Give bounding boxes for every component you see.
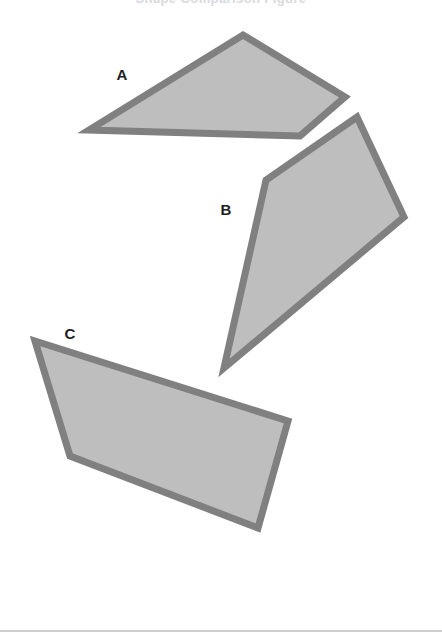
shape-label-a: A [117,67,128,82]
shapes-group [35,35,404,528]
shape-polygon-a [89,35,345,136]
shapes-figure-canvas [0,0,442,641]
shape-label-b: B [221,202,232,217]
shape-label-c: C [65,326,76,341]
figure-page: Shape Comparison Figure ABC [0,0,442,641]
bottom-divider-rule [0,630,442,632]
shape-polygon-b [224,117,404,368]
shape-polygon-c [35,341,288,528]
